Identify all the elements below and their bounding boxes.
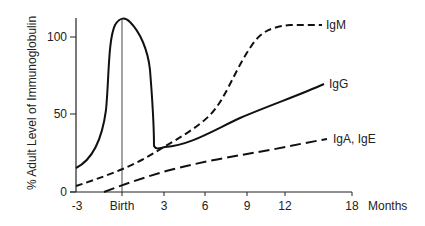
x-tick-birth: Birth xyxy=(110,199,135,213)
immunoglobulin-chart: % Adult Level of Immunoglobulin 0 50 100… xyxy=(0,0,425,226)
x-axis-unit: Months xyxy=(368,199,407,213)
x-tick-18: 18 xyxy=(345,199,359,213)
y-tick-100: 100 xyxy=(47,30,67,44)
x-tick-minus3: -3 xyxy=(72,199,83,213)
x-tick-3: 3 xyxy=(161,199,168,213)
iga-ige-line xyxy=(104,139,327,192)
y-axis-label: % Adult Level of Immunoglobulin xyxy=(25,16,39,190)
x-ticks: -3 Birth 3 6 9 12 18 Months xyxy=(72,192,408,213)
y-tick-0: 0 xyxy=(60,185,67,199)
x-tick-9: 9 xyxy=(244,199,251,213)
label-igg: IgG xyxy=(329,77,348,91)
x-tick-12: 12 xyxy=(278,199,292,213)
x-tick-6: 6 xyxy=(202,199,209,213)
label-igm: IgM xyxy=(326,18,346,32)
igm-line xyxy=(76,25,322,186)
y-tick-50: 50 xyxy=(54,107,68,121)
y-ticks: 0 50 100 xyxy=(47,30,76,199)
label-iga-ige: IgA, IgE xyxy=(333,132,376,146)
igg-line xyxy=(76,19,324,168)
